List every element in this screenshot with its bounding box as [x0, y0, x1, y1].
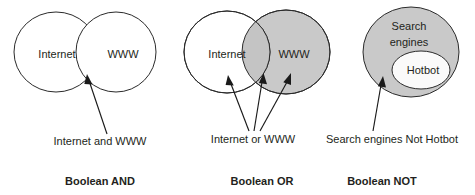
not-label-search-engines-line2: engines [390, 36, 429, 48]
not-caption: Search engines Not Hotbot [326, 133, 458, 145]
and-title: Boolean AND [65, 175, 135, 187]
or-title: Boolean OR [231, 175, 294, 187]
or-label-www: WWW [278, 48, 310, 60]
not-arrow [373, 76, 386, 131]
or-caption: Internet or WWW [211, 133, 296, 145]
not-label-hotbot: Hotbot [407, 64, 439, 76]
not-label-search-engines-line1: Search [392, 20, 427, 32]
panel-boolean-and: Internet WWW Internet and WWW Boolean AN… [14, 12, 156, 187]
boolean-venn-figure: Internet WWW Internet and WWW Boolean AN… [0, 0, 475, 195]
and-caption: Internet and WWW [54, 135, 148, 147]
venn-diagram-canvas: Internet WWW Internet and WWW Boolean AN… [0, 0, 475, 195]
not-title: Boolean NOT [347, 175, 417, 187]
or-label-internet: Internet [208, 48, 245, 60]
and-label-www: WWW [107, 48, 139, 60]
panel-boolean-not: Search engines Hotbot Search engines Not… [326, 7, 459, 187]
panel-boolean-or: Internet WWW Internet or WWW Boolean OR [184, 10, 330, 187]
and-label-internet: Internet [38, 48, 75, 60]
